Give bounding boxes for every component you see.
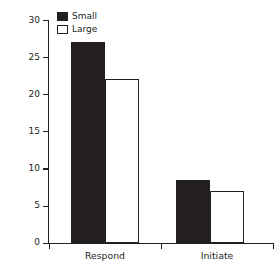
y-tick-label-25: 25	[14, 53, 40, 62]
y-tick-15	[43, 131, 49, 132]
y-tick-label-0: 0	[14, 238, 40, 247]
y-tick-label-30: 30	[14, 16, 40, 25]
y-tick-20	[43, 94, 49, 95]
y-tick-label-5: 5	[14, 201, 40, 210]
y-tick-label-20: 20	[14, 90, 40, 99]
bar-initiate-large	[210, 191, 244, 243]
x-tick-right	[273, 243, 274, 249]
x-tick-mid	[161, 243, 162, 249]
bar-initiate-small	[176, 180, 210, 243]
y-tick-25	[43, 57, 49, 58]
x-tick-label-respond: Respond	[49, 250, 161, 261]
legend-item-large: Large	[57, 24, 97, 35]
filled-square-icon	[57, 12, 68, 21]
x-tick-label-initiate: Initiate	[161, 250, 273, 261]
y-tick-label-15: 15	[14, 127, 40, 136]
bar-respond-small	[71, 42, 105, 242]
open-square-icon	[57, 25, 68, 34]
x-tick-left	[49, 243, 50, 249]
legend-label-large: Large	[72, 25, 97, 34]
y-tick-5	[43, 206, 49, 207]
bar-respond-large	[105, 79, 139, 242]
legend-item-small: Small	[57, 11, 97, 22]
chart-legend: Small Large	[57, 11, 97, 37]
legend-label-small: Small	[72, 12, 97, 21]
y-tick-label-10: 10	[14, 164, 40, 173]
bar-chart-figure: Number of observations 30 25 20 15 10 5 …	[0, 0, 276, 269]
y-tick-30	[43, 20, 49, 21]
y-tick-10	[43, 168, 49, 169]
